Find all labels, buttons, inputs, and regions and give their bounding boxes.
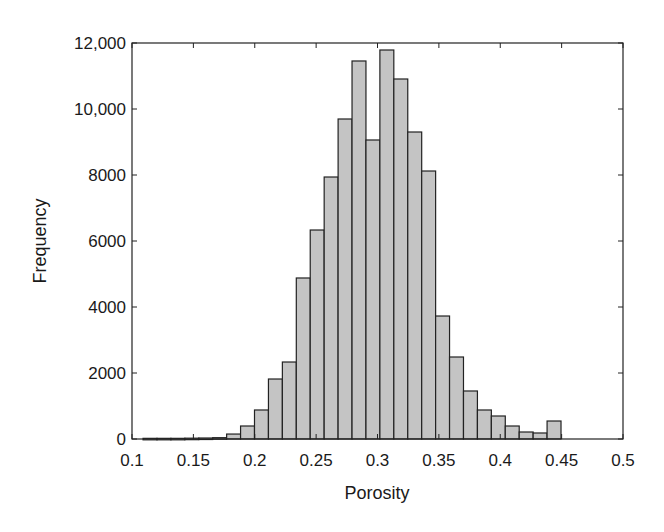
y-tick-label: 6000 xyxy=(88,232,126,251)
y-tick-label: 12,000 xyxy=(74,34,126,53)
histogram-bar xyxy=(324,177,338,439)
histogram-bar xyxy=(422,171,436,439)
x-tick-label: 0.15 xyxy=(177,451,210,470)
x-tick-label: 0.3 xyxy=(366,451,390,470)
y-tick-label: 2000 xyxy=(88,364,126,383)
histogram-bar xyxy=(477,410,491,439)
histogram-bar xyxy=(436,316,450,439)
histogram-chart: 0.10.150.20.250.30.350.40.450.5 02000400… xyxy=(0,0,664,532)
histogram-bar xyxy=(394,79,408,439)
histogram-bar xyxy=(296,278,310,439)
histogram-bar xyxy=(366,140,380,439)
x-tick-label: 0.45 xyxy=(545,451,578,470)
histogram-bar xyxy=(310,230,324,439)
histogram-bar xyxy=(519,432,533,439)
y-axis-label: Frequency xyxy=(30,198,50,283)
histogram-bar xyxy=(338,119,352,439)
histogram-bar xyxy=(380,50,394,439)
histogram-bar xyxy=(241,426,255,439)
x-tick-label: 0.25 xyxy=(300,451,333,470)
histogram-bar xyxy=(505,426,519,439)
histogram-bar xyxy=(463,391,477,439)
histogram-bar xyxy=(491,416,505,439)
x-tick-label: 0.1 xyxy=(120,451,144,470)
y-tick-label: 10,000 xyxy=(74,100,126,119)
x-tick-label: 0.5 xyxy=(611,451,635,470)
histogram-bar xyxy=(255,410,269,439)
histogram-bar xyxy=(547,421,561,439)
y-tick-label: 4000 xyxy=(88,298,126,317)
histogram-bar xyxy=(533,433,547,439)
histogram-bar xyxy=(408,132,422,439)
y-tick-label: 8000 xyxy=(88,166,126,185)
histogram-bars xyxy=(143,50,561,440)
histogram-bar xyxy=(227,434,241,439)
x-tick-label: 0.4 xyxy=(488,451,512,470)
x-tick-label: 0.35 xyxy=(422,451,455,470)
histogram-bar xyxy=(450,357,464,439)
y-tick-label: 0 xyxy=(117,430,126,449)
histogram-bar xyxy=(352,61,366,439)
histogram-bar xyxy=(282,362,296,439)
x-axis-label: Porosity xyxy=(344,483,409,503)
histogram-bar xyxy=(268,379,282,439)
x-tick-label: 0.2 xyxy=(243,451,267,470)
